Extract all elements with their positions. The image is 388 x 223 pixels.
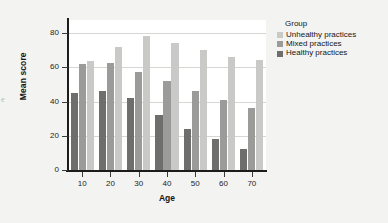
- bar-mixed-practices-age-40: [163, 81, 170, 170]
- legend-swatch-icon: [277, 32, 283, 38]
- x-tick-label-20: 20: [98, 180, 122, 188]
- bar-mixed-practices-age-30: [135, 72, 142, 170]
- legend-swatch-icon: [277, 41, 283, 47]
- plot-inner: [68, 20, 266, 170]
- x-tick-10: [82, 172, 83, 177]
- bar-unhealthy-practices-age-60: [228, 57, 235, 170]
- x-tick-label-10: 10: [70, 180, 94, 188]
- bar-healthy-practices-age-10: [71, 93, 78, 170]
- chart-figure: e Mean score Age Group Unhealthy practic…: [0, 0, 388, 223]
- bar-healthy-practices-age-70: [240, 149, 247, 170]
- bar-healthy-practices-age-40: [155, 115, 162, 170]
- bar-healthy-practices-age-20: [99, 91, 106, 170]
- bar-mixed-practices-age-10: [79, 64, 86, 170]
- x-tick-20: [110, 172, 111, 177]
- bar-mixed-practices-age-60: [220, 100, 227, 170]
- legend-entry: Healthy practices: [277, 49, 385, 58]
- gridline-60: [68, 67, 266, 68]
- y-axis-line: [67, 18, 69, 172]
- gridline-80: [68, 33, 266, 34]
- bar-healthy-practices-age-50: [184, 129, 191, 170]
- bar-unhealthy-practices-age-70: [256, 60, 263, 170]
- x-tick-label-60: 60: [212, 180, 236, 188]
- page-edge-artifact: e: [1, 96, 5, 104]
- bar-unhealthy-practices-age-40: [171, 43, 178, 170]
- y-axis-title: Mean score: [19, 46, 28, 106]
- bar-unhealthy-practices-age-10: [87, 61, 94, 170]
- bar-healthy-practices-age-60: [212, 139, 219, 170]
- bar-unhealthy-practices-age-20: [115, 47, 122, 170]
- x-tick-label-50: 50: [183, 180, 207, 188]
- x-tick-60: [224, 172, 225, 177]
- bar-unhealthy-practices-age-50: [200, 50, 207, 170]
- y-tick-40: [62, 102, 68, 103]
- x-axis-title: Age: [68, 194, 266, 203]
- x-tick-label-30: 30: [127, 180, 151, 188]
- legend-title: Group: [285, 20, 385, 29]
- bar-mixed-practices-age-70: [248, 108, 255, 170]
- bar-unhealthy-practices-age-30: [143, 36, 150, 170]
- x-tick-30: [139, 172, 140, 177]
- x-tick-label-70: 70: [240, 180, 264, 188]
- y-tick-label-60: 60: [50, 63, 59, 71]
- bar-healthy-practices-age-30: [127, 98, 134, 170]
- x-tick-50: [195, 172, 196, 177]
- y-tick-label-0: 0: [55, 166, 59, 174]
- bar-mixed-practices-age-50: [192, 91, 199, 170]
- legend-entry-list: Unhealthy practicesMixed practicesHealth…: [277, 31, 385, 58]
- y-tick-20: [62, 136, 68, 137]
- plot-area: [68, 20, 266, 170]
- y-tick-label-80: 80: [50, 29, 59, 37]
- y-tick-0: [62, 170, 68, 171]
- legend-swatch-icon: [277, 51, 283, 57]
- y-tick-80: [62, 33, 68, 34]
- y-tick-60: [62, 67, 68, 68]
- bar-mixed-practices-age-20: [107, 63, 114, 170]
- chart-legend: Group Unhealthy practicesMixed practices…: [277, 20, 385, 59]
- x-tick-label-40: 40: [155, 180, 179, 188]
- y-tick-label-40: 40: [50, 98, 59, 106]
- legend-label: Healthy practices: [286, 49, 347, 58]
- x-tick-70: [252, 172, 253, 177]
- y-tick-label-20: 20: [50, 132, 59, 140]
- x-tick-40: [167, 172, 168, 177]
